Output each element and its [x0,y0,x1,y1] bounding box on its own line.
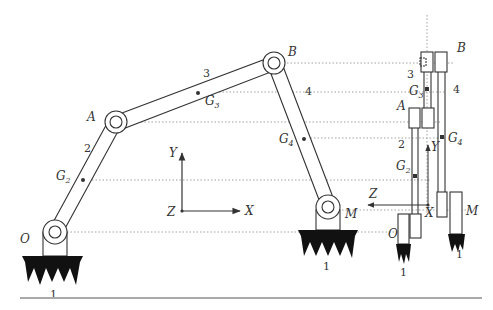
side-label-M: M [465,204,479,218]
joint-B [263,52,285,74]
link-3 [114,57,276,130]
label-O: O [20,232,30,246]
com-G4-dot [302,137,306,141]
ground-label-O: 1 [50,288,57,301]
axis-X-label: X [244,204,254,218]
side-label-A: A [396,99,406,113]
ground-label-M: 1 [323,260,330,273]
mechanism-diagram: 1 1 O A B M [0,0,493,310]
label-link-3: 3 [203,67,210,80]
side-label-O: O [388,227,398,241]
label-M: M [344,207,358,221]
axis-Y-label: Y [169,146,178,160]
side-axis-Y-label: Y [431,140,440,154]
label-link-4: 4 [305,85,312,98]
side-label-link-4: 4 [453,83,460,96]
label-A: A [86,110,96,124]
label-link-2: 2 [84,142,91,155]
side-ground-label-M: 1 [456,248,463,261]
com-G3-dot [196,91,200,95]
side-com-G3 [425,87,429,91]
com-G2-dot [81,178,85,182]
label-G2: G2 [56,169,71,185]
side-label-link-2: 2 [398,138,405,151]
side-com-G4 [440,135,444,139]
side-axis-Z-label: Z [368,187,378,201]
label-B: B [287,45,297,59]
side-ground-label-O: 1 [400,266,407,279]
side-label-link-3: 3 [407,68,414,81]
link-4 [268,61,334,205]
joint-M [316,195,340,219]
label-G3: G3 [205,94,220,110]
front-view: 1 1 O A B M [20,45,358,301]
side-label-G2: G2 [396,159,411,175]
side-view: Y Z X B A O M 3 4 2 G3 G4 G2 1 1 [368,41,479,279]
label-G4: G4 [279,132,294,148]
joint-O [43,220,67,244]
side-com-G2 [413,174,417,178]
axis-Z-label: Z [166,205,176,219]
front-axes: Y X Z [166,146,254,219]
side-label-G4: G4 [448,131,463,147]
side-label-G3: G3 [409,84,424,100]
joint-A [105,111,127,133]
side-axis-X-label: X [424,206,434,220]
side-label-B: B [456,41,466,55]
